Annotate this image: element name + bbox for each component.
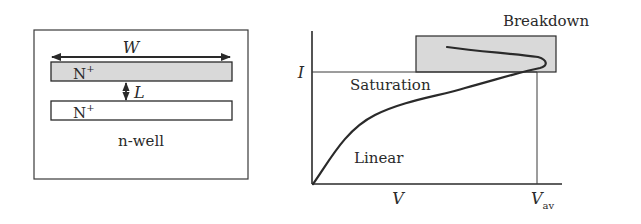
layout-panel: W N+ L N+ n-well: [34, 30, 248, 179]
breakdown-region: [416, 36, 556, 72]
iv-panel: Breakdown I V Vav Saturation Linear: [297, 12, 590, 211]
saturation-label: Saturation: [350, 76, 431, 94]
length-label: L: [133, 83, 145, 102]
n-well-label: n-well: [118, 132, 164, 150]
x-breakdown-voltage-label: Vav: [531, 189, 555, 211]
x-axis-label: V: [392, 189, 405, 208]
linear-label: Linear: [354, 149, 404, 167]
breakdown-label: Breakdown: [503, 12, 590, 30]
width-label: W: [123, 38, 141, 57]
figure: W N+ L N+ n-well Breakdown I V Vav Satur…: [0, 0, 641, 224]
y-axis-label: I: [297, 63, 305, 82]
